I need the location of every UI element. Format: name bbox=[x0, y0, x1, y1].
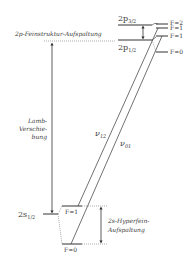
hfs-connector-p12-f0 bbox=[152, 40, 156, 52]
label-nu12: ν12 bbox=[95, 129, 106, 139]
label-p32-f1: F=1 bbox=[170, 24, 183, 31]
energy-level-diagram: 2p3/2 2p1/2 2p-Feinstruktur-Aufspaltung … bbox=[0, 0, 196, 267]
label-s-f0: F=0 bbox=[64, 246, 77, 253]
lamb-label-1: Lamb- bbox=[27, 117, 47, 124]
label-s-f1: F=1 bbox=[65, 208, 78, 215]
lamb-label-2: Verschie- bbox=[19, 125, 47, 132]
transition-nu01 bbox=[71, 36, 162, 244]
label-2s12: 2s1/2 bbox=[18, 210, 35, 220]
hfs-label-1: 2s-Hyperfein- bbox=[107, 217, 149, 225]
label-2p32: 2p3/2 bbox=[118, 14, 136, 24]
label-p12-f0: F=0 bbox=[170, 48, 183, 55]
label-2p12: 2p1/2 bbox=[118, 43, 136, 53]
hfs-connector-s-f0 bbox=[58, 214, 62, 244]
label-nu01: ν01 bbox=[120, 139, 131, 149]
lamb-label-3: bung bbox=[32, 133, 48, 141]
hfs-label-2: Aufspaltung bbox=[107, 226, 145, 234]
fine-structure-label: 2p-Feinstruktur-Aufspaltung bbox=[14, 30, 102, 38]
transition-nu12 bbox=[78, 28, 158, 206]
hfs-connector-s-f1 bbox=[58, 206, 62, 214]
label-p12-f1: F=1 bbox=[170, 32, 183, 39]
